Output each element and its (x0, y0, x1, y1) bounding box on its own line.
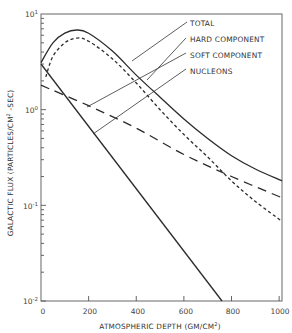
x-tick-label-200: 200 (83, 307, 98, 316)
label-soft-component: SOFT COMPONENT (190, 51, 262, 60)
leader-total (132, 22, 187, 61)
flux-chart: 101 100 10-1 10-2 0 200 400 600 800 1000… (0, 0, 292, 333)
y-tick-label-10e-2: 10-2 (23, 296, 38, 306)
annotation-leaders (87, 22, 187, 134)
label-nucleons: NUCLEONS (190, 67, 233, 76)
x-tick-label-1000: 1000 (270, 307, 289, 316)
x-tick-label-400: 400 (131, 307, 146, 316)
y-tick-label-10e1: 101 (25, 9, 38, 19)
series-soft-component-line (41, 85, 282, 198)
x-tick-labels: 0 200 400 600 800 1000 (41, 307, 290, 316)
leader-soft-component (87, 53, 186, 107)
x-tick-label-0: 0 (41, 307, 46, 316)
y-tick-label-10e0: 100 (25, 105, 39, 115)
y-tick-labels: 101 100 10-1 10-2 (23, 9, 39, 306)
label-hard-component: HARD COMPONENT (190, 35, 265, 44)
series-nucleons-line (41, 64, 222, 301)
y-axis-title: GALACTIC FLUX (PARTICLES/CM2 -SEC) (5, 90, 15, 237)
annotation-labels: TOTAL HARD COMPONENT SOFT COMPONENT NUCL… (189, 19, 265, 76)
x-tick-label-600: 600 (179, 307, 194, 316)
x-tick-label-800: 800 (226, 307, 241, 316)
leader-hard-component (147, 38, 186, 80)
x-axis-ticks (89, 296, 280, 301)
y-tick-label-10e-1: 10-1 (23, 201, 38, 211)
label-total: TOTAL (189, 19, 215, 28)
x-axis-title: ATMOSPHERIC DEPTH (GM/CM2) (99, 321, 220, 331)
